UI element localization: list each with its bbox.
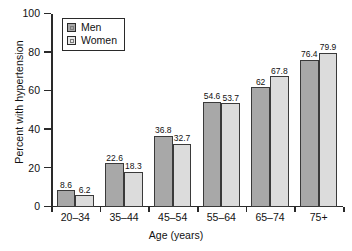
legend-item-men: Men	[67, 21, 117, 34]
y-axis-tick-label: 100	[22, 7, 40, 19]
legend-swatch-women-icon	[67, 36, 76, 45]
bar-women-65-74: 67.8	[270, 76, 289, 207]
legend-label-women: Women	[81, 35, 117, 46]
x-axis-label-65-74: 65–74	[246, 211, 295, 223]
bar-value-label: 53.7	[222, 93, 239, 103]
bar-men-35-44: 22.6	[105, 163, 124, 207]
bar-value-label: 22.6	[106, 153, 123, 163]
y-axis-tick-label: 40	[28, 123, 40, 135]
legend-item-women: Women	[67, 34, 117, 47]
bar-women-55-64: 53.7	[221, 103, 240, 207]
y-axis-tick: 20	[44, 167, 51, 169]
bar-women-45-54: 32.7	[173, 144, 192, 207]
y-axis-tick: 80	[44, 51, 51, 53]
y-axis-tick-label: 0	[34, 200, 40, 212]
chart-legend: Men Women	[62, 18, 125, 51]
bar-value-label: 18.3	[125, 161, 142, 171]
x-axis-label-75+: 75+	[294, 211, 343, 223]
bar-value-label: 67.8	[271, 66, 288, 76]
bar-women-20-34: 6.2	[75, 195, 94, 207]
bar-men-75+: 76.4	[300, 60, 319, 207]
y-axis-tick-label: 80	[28, 46, 40, 58]
x-axis-tick	[343, 207, 345, 212]
y-axis-tick: 40	[44, 128, 51, 130]
x-axis-label-45-54: 45–54	[148, 211, 197, 223]
hypertension-bar-chart: Percent with hypertension 020406080100 8…	[0, 0, 352, 251]
bar-value-label: 32.7	[174, 133, 191, 143]
bar-men-45-54: 36.8	[154, 136, 173, 207]
bar-value-label: 6.2	[79, 185, 91, 195]
bar-value-label: 76.4	[301, 49, 318, 59]
bar-value-label: 79.9	[320, 42, 337, 52]
y-axis-title: Percent with hypertension	[13, 17, 25, 187]
x-axis-label-55-64: 55–64	[197, 211, 246, 223]
y-axis-tick: 0	[44, 206, 51, 208]
y-axis-tick-label: 60	[28, 84, 40, 96]
bar-men-55-64: 54.6	[203, 102, 222, 207]
bar-women-75+: 79.9	[319, 53, 338, 207]
bar-value-label: 54.6	[204, 91, 221, 101]
bar-value-label: 8.6	[60, 180, 72, 190]
x-axis-title: Age (years)	[0, 229, 352, 241]
y-axis-tick: 60	[44, 90, 51, 92]
x-axis-label-20-34: 20–34	[51, 211, 100, 223]
bar-value-label: 36.8	[155, 125, 172, 135]
bar-men-20-34: 8.6	[57, 190, 76, 207]
legend-swatch-men-icon	[67, 23, 76, 32]
bar-men-65-74: 62	[251, 87, 270, 207]
y-axis-tick-label: 20	[28, 162, 40, 174]
legend-label-men: Men	[81, 22, 101, 33]
bar-value-label: 62	[256, 77, 265, 87]
x-axis-label-35-44: 35–44	[100, 211, 149, 223]
y-axis-tick: 100	[44, 13, 51, 15]
bar-women-35-44: 18.3	[124, 172, 143, 207]
